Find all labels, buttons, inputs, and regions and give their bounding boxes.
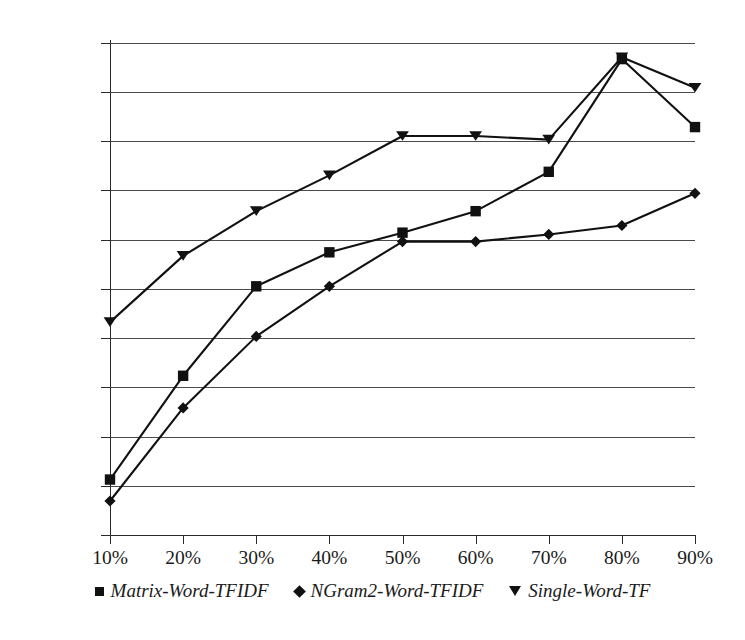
x-axis-tick-label: 80% <box>604 548 640 568</box>
line-chart: 75.0%75.5%70.0%67.5%65.0%62.5%60.0%57.5%… <box>0 0 745 640</box>
x-axis-tick-label: 40% <box>312 548 348 568</box>
x-axis-tick-label: 60% <box>458 548 494 568</box>
x-axis-tick <box>110 535 111 544</box>
x-axis-tick <box>549 535 550 544</box>
x-axis-labels: 10%20%30%40%50%60%70%80%90% <box>0 0 745 640</box>
legend-label: Matrix-Word-TFIDF <box>111 580 269 602</box>
x-axis-tick <box>476 535 477 544</box>
x-axis-tick <box>403 535 404 544</box>
x-axis-tick-label: 20% <box>165 548 201 568</box>
x-axis-tick-label: 10% <box>92 548 128 568</box>
x-axis-tick-label: 70% <box>531 548 567 568</box>
legend-item: NGram2-Word-TFIDF <box>295 580 484 602</box>
x-axis-tick <box>695 535 696 544</box>
x-axis-tick <box>183 535 184 544</box>
legend-item: Matrix-Word-TFIDF <box>95 580 269 602</box>
x-axis-tick-label: 90% <box>677 548 713 568</box>
x-axis-tick <box>622 535 623 544</box>
x-axis-tick <box>329 535 330 544</box>
legend-label: Single-Word-TF <box>528 580 650 602</box>
x-axis-tick <box>256 535 257 544</box>
x-axis-tick-label: 30% <box>238 548 274 568</box>
diamond-marker-icon <box>293 585 306 598</box>
legend-label: NGram2-Word-TFIDF <box>311 580 484 602</box>
legend-item: Single-Word-TF <box>509 580 650 602</box>
chart-legend: Matrix-Word-TFIDFNGram2-Word-TFIDFSingle… <box>0 580 745 602</box>
triangle-down-marker-icon <box>509 586 521 596</box>
square-marker-icon <box>95 587 104 596</box>
x-axis-tick-label: 50% <box>385 548 421 568</box>
